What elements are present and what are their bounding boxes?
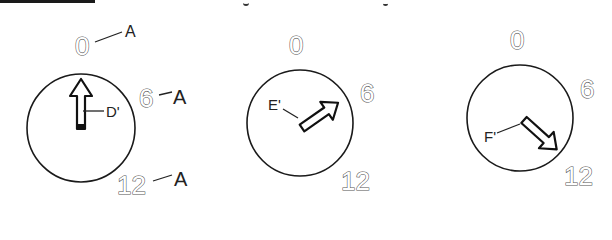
dial-2-mark-6: 6: [360, 78, 374, 108]
dial-3-mark-12: 12: [564, 161, 593, 191]
dial-1-pointer-arrow-icon: [70, 79, 92, 129]
dial-3-pointer-leader: [497, 124, 520, 133]
dial-2-mark-12: 12: [341, 166, 370, 196]
dial-3-face: [467, 65, 573, 171]
dial-1-mark-6: 6: [139, 83, 153, 113]
dial-2-pointer-leader: [283, 109, 298, 118]
dial-1-callout-leader-bottom: [153, 175, 172, 181]
dial-3: 0 6 12 F': [467, 25, 594, 191]
dial-1: 0 6 12 A A A D': [27, 23, 188, 200]
dial-1-pointer-base: [77, 124, 85, 129]
dial-3-mark-6: 6: [580, 74, 594, 104]
dial-1-callout-leader-right: [159, 92, 172, 95]
dial-2-face: [247, 70, 353, 176]
dial-2-pointer-label: E': [268, 96, 281, 113]
dial-1-callout-right: A: [173, 86, 187, 108]
dial-3-pointer-arrow-icon: [517, 112, 564, 158]
dial-1-callout-bottom: A: [174, 168, 188, 190]
dial-1-mark-12: 12: [117, 170, 146, 200]
dial-2-pointer-arrow-icon: [296, 94, 345, 137]
dial-1-callout-leader-top: [95, 32, 122, 42]
dial-3-mark-0: 0: [510, 25, 524, 55]
dial-1-callout-top: A: [125, 23, 136, 40]
dial-1-pointer-label: D': [106, 103, 120, 120]
dial-2: 0 6 12 E': [247, 30, 374, 196]
dial-2-mark-0: 0: [289, 30, 303, 60]
dial-3-pointer-label: F': [484, 128, 496, 145]
dial-1-mark-0: 0: [75, 31, 89, 61]
